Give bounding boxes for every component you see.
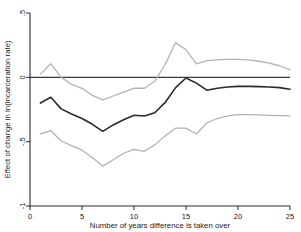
y-tick-label-1: 0	[18, 75, 27, 79]
series-lower-confidence-bound	[40, 115, 290, 166]
x-tick-label-3: 15	[182, 212, 190, 221]
chart-plot-area: 0510152025 .50-.5-1 Number of years diff…	[0, 0, 301, 232]
y-tick-labels: .50-.5-1	[18, 10, 27, 209]
y-tick-label-3: -1	[18, 203, 27, 210]
x-tick-label-0: 0	[28, 212, 32, 221]
data-series-group	[40, 43, 290, 167]
chart-figure: 0510152025 .50-.5-1 Number of years diff…	[0, 0, 301, 232]
series-point-estimate	[40, 78, 290, 131]
x-tick-label-1: 5	[80, 212, 84, 221]
series-upper-confidence-bound	[40, 43, 290, 100]
axis-titles: Number of years difference is taken over…	[3, 40, 231, 230]
x-axis-title: Number of years difference is taken over	[90, 221, 231, 230]
y-tick-label-0: .5	[18, 10, 27, 16]
x-tick-label-2: 10	[130, 212, 138, 221]
y-axis-title: Effect of change in ln(incarceration rat…	[3, 40, 12, 179]
x-tick-labels: 0510152025	[28, 212, 294, 221]
y-tick-label-2: -.5	[18, 137, 27, 146]
x-tick-label-4: 20	[234, 212, 242, 221]
x-tick-label-5: 25	[286, 212, 294, 221]
